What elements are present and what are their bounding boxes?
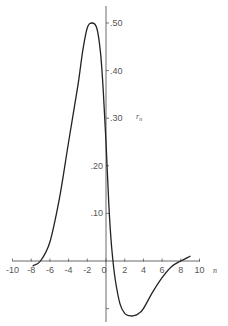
x-tick-label: -6: [46, 265, 54, 275]
y-axis-label: rn: [136, 112, 142, 122]
x-axis: -10-8-6-4-20246810 n: [6, 259, 217, 276]
x-tick-label: -10: [6, 265, 19, 275]
x-tick-label: -2: [83, 265, 91, 275]
y-tick-label: .20: [90, 161, 103, 171]
x-tick-label: 4: [141, 265, 146, 275]
chart: -10-8-6-4-20246810 n .10.20.30.40.50 rn: [0, 0, 228, 326]
x-tick-label: -8: [27, 265, 35, 275]
x-tick-label: 6: [160, 265, 165, 275]
x-tick-label: 8: [178, 265, 183, 275]
y-axis: .10.20.30.40.50 rn: [90, 6, 142, 322]
x-tick-label: 10: [194, 265, 204, 275]
x-axis-label: n: [213, 266, 217, 275]
y-axis-label-subscript: n: [139, 116, 142, 122]
x-tick-label: -4: [65, 265, 73, 275]
y-tick-label: .50: [110, 18, 123, 28]
y-tick-label: .10: [90, 208, 103, 218]
y-tick-label: .40: [110, 66, 123, 76]
x-tick-label: 2: [122, 265, 127, 275]
y-tick-label: .30: [110, 113, 123, 123]
